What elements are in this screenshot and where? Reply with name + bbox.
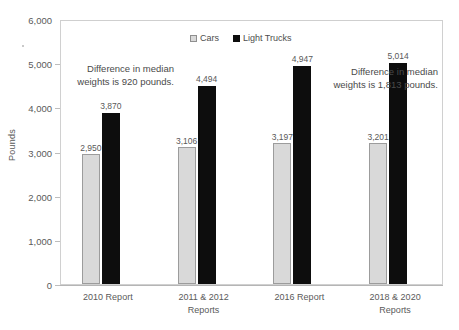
legend-label-cars: Cars [200, 33, 219, 43]
y-tick-label: 3,000 [8, 147, 52, 158]
chart-legend: Cars Light Trucks [190, 33, 292, 43]
y-tick-mark [55, 197, 60, 198]
y-tick-label: 1,000 [8, 235, 52, 246]
cars-swatch-icon [190, 35, 197, 42]
annotation-difference-2: Difference in median weights is 1,813 po… [322, 66, 438, 91]
bar-value-label: 3,201 [367, 132, 388, 142]
bar-value-label: 2,950 [80, 143, 101, 153]
decorative-speck [22, 45, 24, 47]
bar-light-trucks: 4,494 [198, 86, 216, 284]
x-category-label: 2011 & 2012Reports [154, 291, 254, 316]
y-axis-title: Pounds [7, 115, 17, 175]
legend-item-light-trucks[interactable]: Light Trucks [233, 33, 292, 43]
bar-light-trucks: 4,947 [293, 66, 311, 284]
x-category-line: 2011 & 2012 [154, 291, 254, 304]
bar-value-label: 4,947 [292, 54, 313, 64]
x-category-line: 2016 Report [249, 291, 349, 304]
x-category-label: 2016 Report [249, 291, 349, 304]
bar-value-label: 5,014 [387, 51, 408, 61]
plot-inner: 2,9503,8703,1064,4943,1974,9473,2015,014 [61, 21, 442, 284]
y-tick-label: 2,000 [8, 191, 52, 202]
bar-cars: 3,106 [178, 147, 196, 284]
bar-chart: Pounds 2,9503,8703,1064,4943,1974,9473,2… [0, 0, 459, 330]
bar-cars: 3,197 [273, 143, 291, 284]
x-category-line: Reports [345, 304, 445, 317]
plot-area: 2,9503,8703,1064,4943,1974,9473,2015,014 [60, 20, 443, 285]
y-tick-mark [55, 241, 60, 242]
x-category-label: 2010 Report [58, 291, 158, 304]
annotation-difference-1: Difference in median weights is 920 poun… [62, 63, 174, 88]
y-tick-mark [55, 108, 60, 109]
bar-light-trucks: 3,870 [102, 113, 120, 284]
y-tick-mark [55, 64, 60, 65]
bar-value-label: 3,106 [176, 136, 197, 146]
x-category-label: 2018 & 2020Reports [345, 291, 445, 316]
bar-value-label: 4,494 [196, 74, 217, 84]
bar-cars: 2,950 [82, 154, 100, 284]
y-tick-label: 4,000 [8, 103, 52, 114]
x-category-line: Reports [154, 304, 254, 317]
bar-cars: 3,201 [369, 143, 387, 284]
bar-value-label: 3,197 [272, 132, 293, 142]
x-category-line: 2018 & 2020 [345, 291, 445, 304]
x-axis-line [60, 285, 443, 286]
y-tick-label: 6,000 [8, 15, 52, 26]
y-tick-label: 0 [8, 280, 52, 291]
y-tick-label: 5,000 [8, 59, 52, 70]
x-category-line: 2010 Report [58, 291, 158, 304]
light-trucks-swatch-icon [233, 35, 240, 42]
bar-light-trucks: 5,014 [389, 63, 407, 284]
legend-item-cars[interactable]: Cars [190, 33, 219, 43]
bar-value-label: 3,870 [100, 101, 121, 111]
y-tick-mark [55, 153, 60, 154]
legend-label-light-trucks: Light Trucks [243, 33, 292, 43]
